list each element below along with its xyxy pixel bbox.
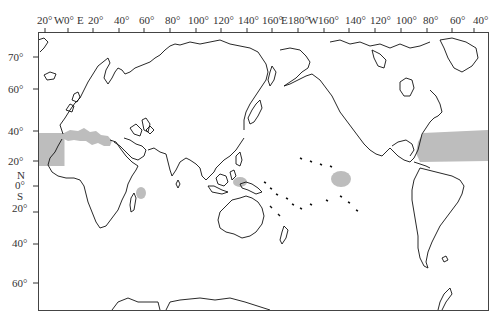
shaded-region-west-atlantic [416, 130, 488, 162]
lon-label-160w: 160° [318, 15, 339, 26]
lon-label-60w: 60° [450, 15, 465, 26]
world-map-figure: 20° W 0° E 20° 40° 60° 80° 100° 120° 140… [0, 0, 498, 322]
lon-label-140e: 140° [238, 15, 259, 26]
shaded-region-east-atlantic [39, 133, 65, 166]
coastline-greenland-edge [38, 38, 48, 52]
lon-label-20e: 20° [88, 15, 103, 26]
lat-label-20s: 20° [12, 203, 27, 214]
map-canvas [0, 0, 498, 322]
coastline-australia [218, 196, 264, 238]
coastline-antarctica [112, 298, 270, 310]
lat-label-70n: 70° [8, 52, 23, 63]
shaded-region-mediterranean [62, 128, 112, 146]
shaded-region-central-pacific [331, 171, 351, 187]
lat-label-40s: 40° [12, 238, 27, 249]
lat-label-60n: 60° [8, 84, 23, 95]
coastline-arabia [114, 138, 146, 160]
lat-label-60s: 60° [12, 278, 27, 289]
lon-label-w: W [54, 15, 64, 26]
lon-label-w2: W [308, 15, 318, 26]
coastline-hudson-bay [400, 78, 414, 96]
lon-label-60e: 60° [139, 15, 154, 26]
lon-label-20w: 20° [37, 15, 52, 26]
lat-label-40n: 40° [8, 126, 23, 137]
coastline-madagascar [130, 193, 136, 212]
coastline-europe [60, 44, 180, 134]
lon-label-0: 0° [64, 15, 74, 26]
lon-label-e2: E [281, 15, 288, 26]
coastlines [38, 38, 478, 310]
lon-label-e: E [77, 15, 84, 26]
coastline-canada-arctic [330, 40, 430, 48]
coastline-indonesia [216, 174, 228, 186]
coastline-alaska [280, 48, 312, 86]
coastline-iceland [44, 72, 56, 80]
shaded-region-indian-ocean [136, 187, 146, 199]
coastline-new-zealand [280, 226, 288, 244]
lon-label-120w: 120° [370, 15, 391, 26]
coastline-north-asia [180, 40, 268, 130]
lon-label-180: 180° [288, 15, 309, 26]
lon-label-80e: 80° [165, 15, 180, 26]
lon-label-100e: 100° [188, 15, 209, 26]
left-axis-ticks [33, 57, 39, 283]
lon-label-80w: 80° [423, 15, 438, 26]
lon-label-100w: 100° [396, 15, 417, 26]
lat-label-s: S [17, 191, 23, 202]
coastline-south-america [412, 168, 464, 268]
lon-label-40e: 40° [114, 15, 129, 26]
lat-label-20n: 20° [8, 156, 23, 167]
lon-label-120e: 120° [213, 15, 234, 26]
map-frame [39, 33, 489, 311]
coastline-india [148, 148, 190, 176]
coastline-greenland [440, 38, 478, 72]
lon-label-140w: 140° [345, 15, 366, 26]
coastline-antarctic-peninsula [438, 288, 452, 310]
lon-label-160e: 160° [262, 15, 283, 26]
lon-label-40w: 40° [473, 15, 488, 26]
